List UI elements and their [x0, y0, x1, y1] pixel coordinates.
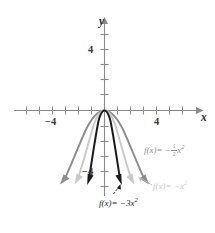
curve-label-three-exponent: 2 — [134, 196, 137, 203]
curve-label-one-body: = −x — [166, 181, 184, 191]
curve-label-one-fn: f(x) — [153, 181, 166, 191]
curve-label-one-exponent: 2 — [184, 179, 187, 186]
parabola-comparison-figure: y x −4 4 4 −4 f(x)= −12x2 f(x)= −x2 f(x)… — [0, 0, 215, 233]
x-axis-name-label: x — [201, 112, 207, 124]
curve-label-half-fn: f(x) — [144, 145, 157, 155]
curve-label-half-equals: = − — [157, 145, 171, 155]
curve-label-half-exponent: 2 — [181, 143, 184, 150]
caption-strip — [0, 224, 215, 233]
curve-half-left-arrowhead — [60, 174, 70, 184]
curve-label-half-fraction: 12 — [171, 143, 176, 158]
axes-group — [14, 17, 204, 196]
curve-label-neg-3x-squared: f(x)= −3x2 — [99, 199, 138, 208]
y-tick-label-neg4: −4 — [82, 167, 93, 178]
x-tick-label-neg4: −4 — [45, 117, 56, 128]
y-axis-name-label: y — [99, 16, 104, 28]
curve-three-right-arrowhead — [115, 174, 121, 185]
curve-one-right-arrowhead — [126, 174, 134, 185]
x-tick-label-pos4: 4 — [154, 117, 159, 128]
curve-label-three-fn: f(x) — [99, 198, 112, 208]
curve-label-half-denominator: 2 — [171, 150, 176, 158]
y-tick-label-pos4: 4 — [88, 45, 93, 56]
curve-label-neg-x-squared: f(x)= −x2 — [153, 182, 187, 191]
curve-label-half-numerator: 1 — [171, 143, 176, 150]
curve-label-three-body: = −3x — [112, 198, 135, 208]
leader-arrowhead-three — [117, 184, 121, 189]
curve-label-half-x-squared: f(x)= −12x2 — [144, 143, 184, 158]
